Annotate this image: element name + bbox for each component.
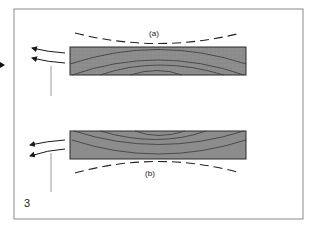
arrow-icon	[30, 149, 65, 156]
panel-label-b: (b)	[145, 169, 155, 178]
arrow-icon	[32, 48, 65, 53]
pointer-arrow-icon	[0, 62, 5, 68]
panel-a: (a)	[32, 29, 246, 96]
arrow-icon	[30, 140, 65, 145]
wood-cupping-diagram: (a) (b) 3	[0, 0, 311, 229]
figure-frame	[14, 9, 303, 219]
panel-b: (b)	[30, 131, 246, 192]
figure-number: 3	[24, 197, 30, 209]
panel-label-a: (a)	[149, 29, 159, 38]
arrow-icon	[32, 58, 65, 63]
dashed-cup-curve-b	[75, 162, 241, 174]
